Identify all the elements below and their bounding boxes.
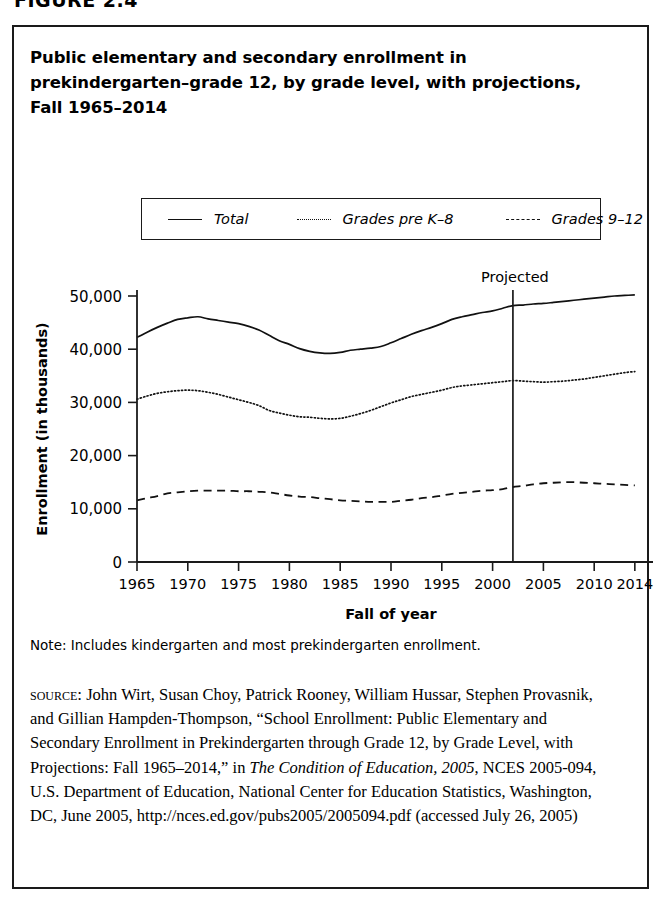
legend-item-grades-9-12: Grades 9–12 (506, 211, 643, 227)
figure-number: FIGURE 2.4 (14, 0, 138, 11)
legend-item-grades-pre-k-8: Grades pre K–8 (297, 211, 454, 227)
figure-source: SOURCE: John Wirt, Susan Choy, Patrick R… (30, 683, 615, 828)
source-label: SOURCE: (30, 685, 82, 704)
legend-swatch-dotted-icon (297, 213, 331, 225)
legend-swatch-dashed-icon (506, 213, 540, 225)
legend-label-grades-9-12: Grades 9–12 (552, 211, 643, 227)
legend-label-grades-pre-k-8: Grades pre K–8 (343, 211, 454, 227)
chart-legend: Total Grades pre K–8 Grades 9–12 (141, 198, 601, 240)
legend-swatch-solid-icon (168, 213, 202, 225)
legend-item-total: Total (168, 211, 249, 227)
figure-title: Public elementary and secondary enrollme… (30, 45, 605, 120)
source-publication-title: The Condition of Education, 2005 (250, 758, 475, 777)
figure-note: Note: Includes kindergarten and most pre… (30, 636, 610, 654)
legend-label-total: Total (214, 211, 249, 227)
